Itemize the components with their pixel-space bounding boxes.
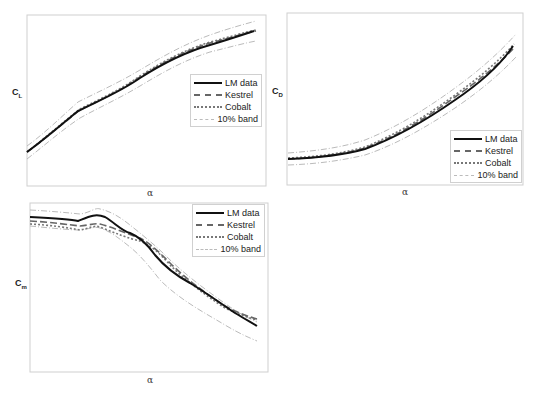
solid-line-swatch-icon <box>194 82 222 84</box>
legend-item-kestrel: Kestrel <box>194 89 258 101</box>
cl-chart: CL α LM data Kestrel Cobalt 10% band <box>0 0 270 200</box>
cm-y-axis-label: Cm <box>15 278 27 290</box>
cm-x-axis-label: α <box>147 375 153 385</box>
dashed-line-swatch-icon <box>194 94 222 96</box>
dotted-line-swatch-icon <box>194 106 222 108</box>
dashed-line-swatch-icon <box>196 224 224 226</box>
legend-item-cobalt: Cobalt <box>196 231 261 243</box>
legend-item-lm-data: LM data <box>194 77 258 89</box>
legend-item-band: 10% band <box>196 243 261 255</box>
legend-item-lm-data: LM data <box>196 207 261 219</box>
cd-x-axis-label: α <box>402 187 408 197</box>
cl-y-axis-label: CL <box>12 87 22 99</box>
legend-item-kestrel: Kestrel <box>454 145 518 157</box>
cd-y-axis-label: CD <box>272 86 283 98</box>
dotted-line-swatch-icon <box>196 236 224 238</box>
dashdot-line-swatch-icon <box>196 249 217 250</box>
cd-legend: LM data Kestrel Cobalt 10% band <box>450 130 522 183</box>
cm-legend: LM data Kestrel Cobalt 10% band <box>192 204 265 257</box>
cm-chart: Cm α LM data Kestrel Cobalt 10% band <box>0 195 270 393</box>
solid-line-swatch-icon <box>196 212 224 214</box>
dotted-line-swatch-icon <box>454 162 482 164</box>
legend-item-kestrel: Kestrel <box>196 219 261 231</box>
legend-item-cobalt: Cobalt <box>454 157 518 169</box>
dashed-line-swatch-icon <box>454 150 482 152</box>
legend-item-lm-data: LM data <box>454 133 518 145</box>
legend-item-cobalt: Cobalt <box>194 101 258 113</box>
dashdot-line-swatch-icon <box>194 119 214 120</box>
solid-line-swatch-icon <box>454 138 482 140</box>
cd-chart: CD α LM data Kestrel Cobalt 10% band <box>265 0 536 200</box>
legend-item-band: 10% band <box>454 169 518 181</box>
cl-legend: LM data Kestrel Cobalt 10% band <box>190 74 262 127</box>
legend-item-band: 10% band <box>194 113 258 125</box>
dashdot-line-swatch-icon <box>454 175 474 176</box>
